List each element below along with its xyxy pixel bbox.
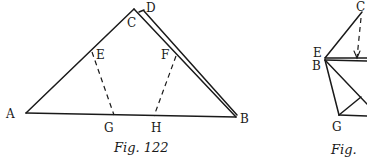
caption-fig-123: Fig. xyxy=(330,142,357,157)
label-b-2: B xyxy=(312,59,321,73)
side-cd-cap xyxy=(139,10,144,12)
label-h: H xyxy=(151,121,161,135)
fold-fh xyxy=(154,56,176,116)
label-g-2: G xyxy=(332,120,342,134)
figure-122: A B C D E F G H Fig. 122 xyxy=(5,1,249,155)
label-c-2: C xyxy=(356,0,365,14)
label-e-2: E xyxy=(313,46,322,60)
side-ac xyxy=(26,9,134,113)
base-ab xyxy=(26,113,236,117)
label-f: F xyxy=(161,48,169,62)
g-diagonal xyxy=(339,97,361,115)
label-g: G xyxy=(104,121,114,135)
diagram-canvas: A B C D E F G H Fig. 122 C E B G Fig. xyxy=(0,0,367,166)
label-a: A xyxy=(5,107,15,121)
label-b: B xyxy=(240,112,249,126)
label-c: C xyxy=(127,16,136,30)
top-edge-2 xyxy=(325,60,367,61)
side-ce xyxy=(325,12,362,58)
label-e: E xyxy=(96,48,105,62)
caption-fig-122: Fig. 122 xyxy=(113,140,169,155)
figure-123: C E B G Fig. xyxy=(312,0,367,157)
label-d: D xyxy=(146,1,156,15)
side-db xyxy=(144,11,237,115)
base-g xyxy=(339,115,367,116)
side-cb xyxy=(134,9,236,117)
